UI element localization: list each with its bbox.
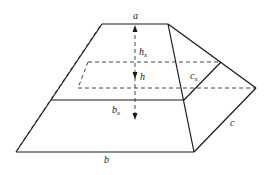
- label-h: h: [140, 71, 145, 82]
- label-bx: bx: [112, 104, 121, 117]
- label-c: c: [230, 117, 235, 128]
- label-b: b: [104, 154, 109, 165]
- side-edge-c: [194, 88, 256, 152]
- arrow-down-icon: [133, 113, 138, 120]
- label-a: a: [133, 10, 138, 21]
- section-left-dashed-edge: [78, 62, 88, 88]
- back-right-edge: [168, 24, 256, 88]
- label-hx: hx: [139, 46, 148, 59]
- section-side-edge-cx: [184, 62, 221, 100]
- arrow-up-icon: [133, 25, 138, 32]
- label-cx: cx: [190, 70, 198, 83]
- arrow-down-icon: [133, 72, 138, 79]
- front-left-edge: [16, 24, 102, 152]
- frustum-diagram: a b c h hx bx cx: [0, 0, 270, 175]
